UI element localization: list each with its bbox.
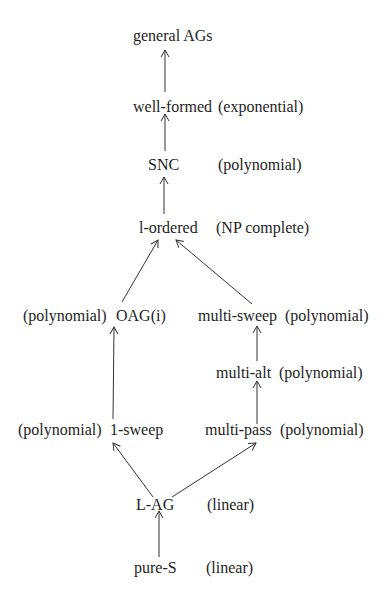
node-pure-s: pure-S xyxy=(134,559,177,577)
complexity-well-formed: (exponential) xyxy=(218,98,303,116)
edge-onesweep-to-oag xyxy=(113,327,114,419)
node-snc: SNC xyxy=(148,156,179,174)
node-multi-sweep: multi-sweep xyxy=(198,307,277,325)
edge-lag-to-onesweep xyxy=(113,443,153,497)
complexity-one-sweep: (polynomial) xyxy=(18,421,102,439)
edge-oag-to-lordered xyxy=(122,240,158,302)
node-l-ordered: l-ordered xyxy=(139,219,198,237)
node-one-sweep: 1-sweep xyxy=(110,421,163,439)
edge-multisweep-to-lordered xyxy=(176,240,252,304)
node-l-ag: L-AG xyxy=(136,496,174,514)
complexity-multi-pass: (polynomial) xyxy=(280,421,364,439)
complexity-oag: (polynomial) xyxy=(23,307,107,325)
complexity-snc: (polynomial) xyxy=(218,156,302,174)
complexity-pure-s: (linear) xyxy=(206,559,253,577)
complexity-multi-sweep: (polynomial) xyxy=(285,307,369,325)
complexity-multi-alt: (polynomial) xyxy=(279,364,363,382)
node-multi-pass: multi-pass xyxy=(205,421,272,439)
node-well-formed: well-formed xyxy=(133,98,212,116)
complexity-l-ordered: (NP complete) xyxy=(216,219,309,237)
complexity-l-ag: (linear) xyxy=(207,496,254,514)
edges-layer xyxy=(0,0,386,598)
edge-lag-to-multipass xyxy=(172,443,256,497)
node-multi-alt: multi-alt xyxy=(216,364,271,382)
node-general-ags: general AGs xyxy=(133,27,213,45)
node-oag: OAG(i) xyxy=(116,307,166,325)
